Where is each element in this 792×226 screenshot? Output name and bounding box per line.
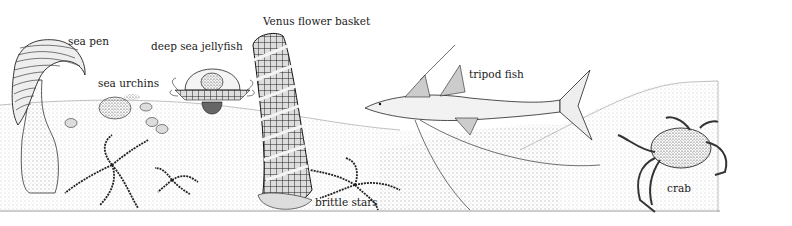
label-deep-sea-jellyfish: deep sea jellyfish <box>151 40 243 52</box>
label-crab: crab <box>667 182 691 194</box>
label-sea-urchins: sea urchins <box>98 77 159 89</box>
label-sea-pen: sea pen <box>68 35 109 47</box>
deep-sea-illustration: sea pen deep sea jellyfish sea urchins V… <box>0 0 792 226</box>
label-tripod-fish: tripod fish <box>469 68 524 80</box>
label-venus-flower-basket: Venus flower basket <box>263 15 370 27</box>
label-brittle-stars: brittle stars <box>315 196 378 208</box>
